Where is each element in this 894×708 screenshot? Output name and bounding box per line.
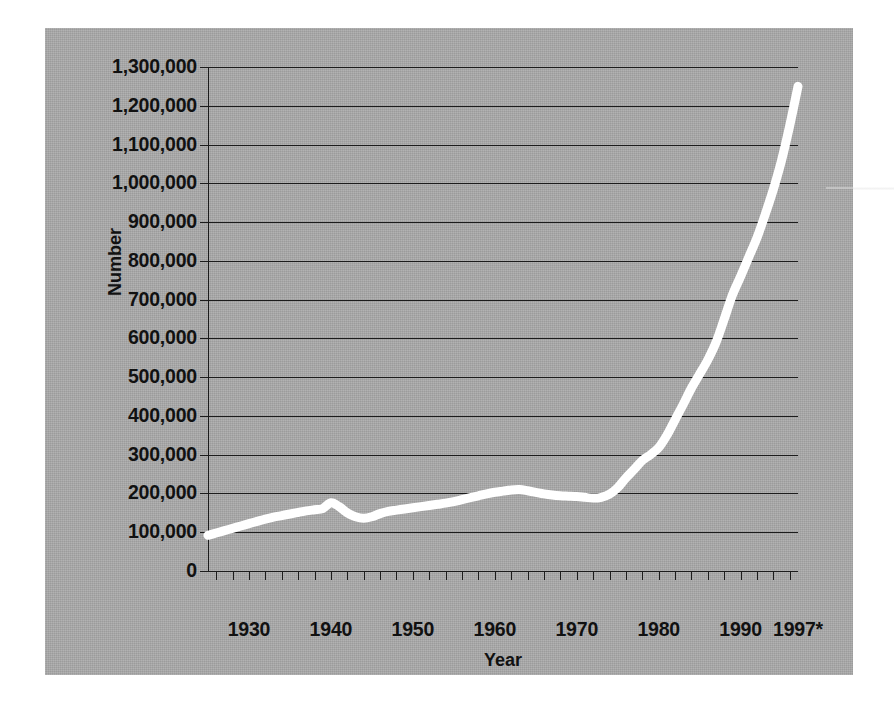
x-axis-line <box>208 571 798 572</box>
x-tick <box>577 571 578 580</box>
y-tick <box>200 300 208 301</box>
y-tick-label: 400,000 <box>49 406 197 426</box>
x-tick <box>495 571 496 580</box>
y-tick <box>200 222 208 223</box>
x-tick <box>691 571 692 580</box>
y-tick-label: 1,300,000 <box>49 57 197 77</box>
x-tick <box>528 571 529 580</box>
y-tick <box>200 145 208 146</box>
x-tick <box>233 571 234 580</box>
x-tick <box>790 571 791 580</box>
y-tick <box>200 416 208 417</box>
data-series-line <box>208 67 798 571</box>
y-tick <box>200 183 208 184</box>
y-tick <box>200 571 208 572</box>
chart-panel: Number 1,300,0001,200,0001,100,0001,000,… <box>45 28 853 675</box>
y-tick-label: 0 <box>49 561 197 581</box>
x-tick <box>298 571 299 580</box>
x-tick <box>724 571 725 580</box>
x-tick <box>626 571 627 580</box>
scan-artifact <box>853 187 894 190</box>
y-tick-label: 1,000,000 <box>49 173 197 193</box>
y-tick <box>200 338 208 339</box>
x-tick <box>462 571 463 580</box>
x-tick <box>315 571 316 580</box>
y-tick-label: 800,000 <box>49 251 197 271</box>
x-tick <box>708 571 709 580</box>
x-tick <box>364 571 365 580</box>
y-tick <box>200 106 208 107</box>
x-tick <box>560 571 561 580</box>
chart-figure: Number 1,300,0001,200,0001,100,0001,000,… <box>0 0 894 708</box>
x-tick <box>675 571 676 580</box>
y-tick-label: 700,000 <box>49 290 197 310</box>
y-tick <box>200 377 208 378</box>
y-tick <box>200 493 208 494</box>
x-tick <box>741 571 742 580</box>
scan-artifact-left <box>826 187 854 189</box>
x-tick <box>757 571 758 580</box>
y-tick-label: 200,000 <box>49 483 197 503</box>
x-tick <box>282 571 283 580</box>
x-tick-label: 1997* <box>748 618 848 641</box>
y-tick <box>200 455 208 456</box>
y-tick-label: 100,000 <box>49 522 197 542</box>
y-tick-label: 300,000 <box>49 445 197 465</box>
y-tick-label: 600,000 <box>49 328 197 348</box>
x-tick <box>413 571 414 580</box>
x-tick <box>331 571 332 580</box>
x-tick <box>249 571 250 580</box>
x-tick <box>511 571 512 580</box>
x-axis-title: Year <box>208 650 798 671</box>
x-tick <box>216 571 217 580</box>
x-tick <box>446 571 447 580</box>
y-tick <box>200 261 208 262</box>
plot-area <box>208 67 798 571</box>
y-tick <box>200 67 208 68</box>
x-tick <box>544 571 545 580</box>
x-tick <box>265 571 266 580</box>
series-path <box>208 86 798 535</box>
x-tick <box>773 571 774 580</box>
x-tick <box>642 571 643 580</box>
y-tick-label: 500,000 <box>49 367 197 387</box>
x-tick <box>659 571 660 580</box>
x-tick <box>347 571 348 580</box>
x-tick <box>593 571 594 580</box>
y-tick-label: 900,000 <box>49 212 197 232</box>
x-tick <box>478 571 479 580</box>
x-tick <box>610 571 611 580</box>
y-tick-label: 1,200,000 <box>49 96 197 116</box>
x-tick <box>380 571 381 580</box>
x-tick <box>429 571 430 580</box>
x-tick <box>396 571 397 580</box>
y-tick-label: 1,100,000 <box>49 135 197 155</box>
